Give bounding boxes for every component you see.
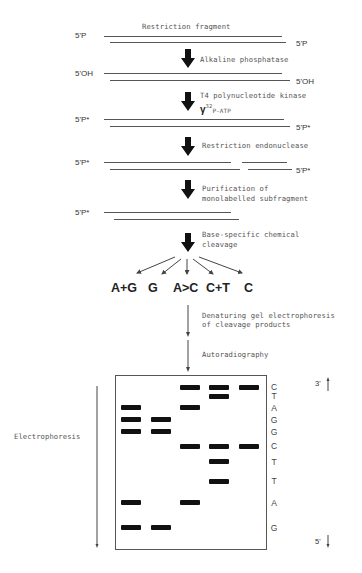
gel-band (121, 405, 141, 410)
five-prime-label: 5' (315, 537, 321, 546)
gel-autoradiogram (115, 375, 267, 550)
gel-band (209, 444, 229, 449)
reaction-label-a-gt-c: A>C (173, 281, 198, 295)
gel-band (180, 385, 200, 390)
gel-band (239, 444, 259, 449)
sequence-base: G (269, 415, 279, 425)
sequence-base: G (269, 523, 279, 533)
sequence-base: G (269, 427, 279, 437)
gel-band (151, 525, 171, 530)
gel-band (180, 500, 200, 505)
sequence-base: T (269, 476, 279, 486)
gel-band (121, 429, 141, 434)
step-autoradiography: Autoradiography (202, 350, 268, 359)
gel-band (121, 417, 141, 422)
step-denaturing-gel-line2: of cleavage products (202, 320, 291, 329)
three-prime-label: 3' (315, 379, 321, 388)
gel-band (209, 479, 229, 484)
gel-band (180, 444, 200, 449)
sequence-base: T (269, 391, 279, 401)
reaction-label-a-plus-g: A+G (111, 281, 137, 295)
reaction-label-c: C (244, 281, 253, 295)
sequence-base: A (269, 498, 279, 508)
gel-band (209, 385, 229, 390)
gel-band (180, 405, 200, 410)
gel-band (209, 459, 229, 464)
gel-band (151, 429, 171, 434)
electrophoresis-label: Electrophoresis (14, 432, 80, 441)
sequence-base: A (269, 403, 279, 413)
gel-band (121, 500, 141, 505)
reaction-label-c-plus-t: C+T (206, 281, 230, 295)
sequence-base: C (269, 441, 279, 451)
gel-band (209, 394, 229, 399)
gel-band (239, 385, 259, 390)
gel-band (121, 525, 141, 530)
sequence-base: T (269, 457, 279, 467)
step-denaturing-gel-line1: Denaturing gel electrophoresis (202, 311, 335, 320)
gel-band (151, 417, 171, 422)
reaction-label-g: G (148, 281, 158, 295)
